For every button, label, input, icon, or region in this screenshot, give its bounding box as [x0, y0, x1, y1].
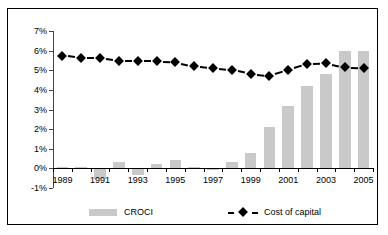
cost-of-capital-marker [152, 56, 162, 66]
cost-of-capital-line-dash [313, 63, 320, 65]
y-axis-tick-mark [49, 129, 53, 130]
x-axis-tick-mark [53, 168, 54, 172]
cost-of-capital-line-dash [144, 60, 151, 62]
croci-bar [264, 127, 276, 168]
cost-of-capital-marker [246, 69, 256, 79]
x-axis-tick-mark [354, 168, 355, 172]
cost-of-capital-marker [227, 65, 237, 75]
cost-of-capital-line-dash [257, 74, 264, 77]
x-axis-tick-mark [91, 168, 92, 172]
y-axis-tick-label: 0% [34, 164, 47, 173]
croci-bar [301, 86, 313, 168]
cost-of-capital-line-dash [294, 65, 302, 69]
x-axis-tick-label: 1997 [203, 176, 223, 185]
x-axis-tick-label: 1995 [165, 176, 185, 185]
y-axis-tick-mark [49, 31, 53, 32]
y-axis-tick-label: 6% [34, 46, 47, 55]
x-axis-tick-label: 1991 [90, 176, 110, 185]
cost-of-capital-marker [57, 51, 67, 61]
y-axis-line [53, 31, 54, 188]
chart-figure: -1%0%1%2%3%4%5%6%7% 19891991199319951997… [0, 0, 388, 235]
cost-of-capital-marker [76, 54, 86, 64]
x-axis-tick-mark [72, 168, 73, 172]
y-axis-tick-label: 2% [34, 125, 47, 134]
cost-of-capital-line-dash [275, 71, 283, 75]
x-axis-tick-label: 1999 [241, 176, 261, 185]
cost-of-capital-line-dash [87, 57, 94, 59]
x-axis-tick-mark [222, 168, 223, 172]
cost-of-capital-line-dash [68, 55, 75, 58]
y-axis-tick-mark [49, 110, 53, 111]
x-axis-tick-mark [147, 168, 148, 172]
x-axis-tick-label: 2001 [278, 176, 298, 185]
x-axis-tick-mark [204, 168, 205, 172]
y-axis-tick-mark [49, 70, 53, 71]
y-axis-tick-label: -1% [31, 184, 47, 193]
cost-of-capital-marker [302, 59, 312, 69]
y-axis-tick-mark [49, 90, 53, 91]
croci-bar [320, 74, 332, 168]
y-axis-tick-label: 3% [34, 105, 47, 114]
x-axis-tick-label: 1993 [128, 176, 148, 185]
cost-of-capital-line-dash [162, 61, 169, 63]
x-axis-tick-mark [298, 168, 299, 172]
cost-of-capital-line-dash [125, 60, 132, 62]
cost-of-capital-marker [133, 56, 143, 66]
cost-of-capital-marker [283, 65, 293, 75]
legend-item-cost-of-capital: Cost of capital [228, 207, 321, 217]
x-axis-line [53, 168, 373, 169]
legend-swatch-dashed-diamond-icon [228, 208, 258, 217]
y-axis-tick-label: 4% [34, 85, 47, 94]
y-axis-tick-label: 1% [34, 144, 47, 153]
cost-of-capital-marker [170, 57, 180, 67]
x-axis-tick-label: 2005 [354, 176, 374, 185]
cost-of-capital-marker [265, 71, 275, 81]
x-axis-tick-mark [128, 168, 129, 172]
x-axis-tick-label: 1989 [52, 176, 72, 185]
cost-of-capital-line-dash [219, 68, 226, 71]
croci-bar [245, 153, 257, 169]
y-axis-tick-label: 5% [34, 66, 47, 75]
cost-of-capital-marker [114, 56, 124, 66]
plot-area: -1%0%1%2%3%4%5%6%7% 19891991199319951997… [53, 31, 373, 188]
cost-of-capital-line-dash [351, 67, 358, 69]
cost-of-capital-line-dash [106, 58, 113, 61]
x-axis-tick-mark [109, 168, 110, 172]
y-axis-tick-label: 7% [34, 27, 47, 36]
cost-of-capital-marker [208, 63, 218, 73]
cost-of-capital-marker [189, 61, 199, 71]
x-axis-tick-mark [260, 168, 261, 172]
x-axis-tick-mark [317, 168, 318, 172]
cost-of-capital-line-dash [237, 70, 244, 73]
x-axis-tick-mark [166, 168, 167, 172]
cost-of-capital-marker [321, 58, 331, 68]
y-axis-tick-mark [49, 188, 53, 189]
chart-frame: -1%0%1%2%3%4%5%6%7% 19891991199319951997… [7, 8, 378, 225]
x-axis-tick-mark [279, 168, 280, 172]
croci-bar [282, 106, 294, 169]
legend-label-croci: CROCI [124, 207, 153, 217]
cost-of-capital-line-dash [200, 66, 207, 69]
y-axis-tick-mark [49, 149, 53, 150]
legend-label-cost-of-capital: Cost of capital [264, 207, 321, 217]
x-axis-tick-label: 2003 [316, 176, 336, 185]
x-axis-tick-mark [241, 168, 242, 172]
x-axis-tick-mark [373, 168, 374, 172]
x-axis-tick-mark [335, 168, 336, 172]
legend-item-croci: CROCI [89, 207, 153, 217]
cost-of-capital-marker [95, 54, 105, 64]
legend-swatch-bar-icon [89, 209, 117, 216]
cost-of-capital-line-dash [181, 63, 188, 66]
x-axis-tick-mark [185, 168, 186, 172]
y-axis-tick-mark [49, 51, 53, 52]
chart-legend: CROCI Cost of capital [53, 205, 373, 221]
